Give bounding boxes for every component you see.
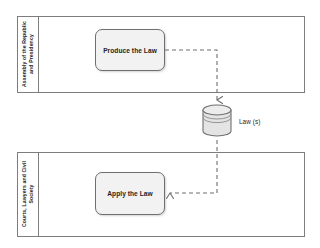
datastore-laws[interactable] — [202, 104, 232, 138]
pool-legislative-header-label: Assembly of the Republic and Presidency — [21, 22, 35, 88]
pool-judicial-header-label: Courts, Lawyers and Civil Society — [21, 161, 35, 227]
datastore-cylinder-icon — [202, 104, 232, 138]
task-produce-the-law-label: Produce the Law — [103, 47, 157, 54]
pool-judicial-header-line-2: Society — [28, 161, 35, 227]
task-produce-the-law[interactable]: Produce the Law — [95, 29, 165, 71]
pool-legislative-header-line-1: Assembly of the Republic — [21, 22, 28, 88]
task-apply-the-law-label: Apply the Law — [107, 190, 153, 197]
task-apply-the-law[interactable]: Apply the Law — [95, 172, 165, 215]
datastore-laws-label: Law (s) — [239, 118, 260, 125]
diagram-canvas: Assembly of the Republic and Presidency … — [0, 0, 320, 248]
pool-legislative-header-line-2: and Presidency — [28, 22, 35, 88]
pool-judicial-header: Courts, Lawyers and Civil Society — [18, 153, 39, 236]
pool-legislative-header: Assembly of the Republic and Presidency — [18, 17, 39, 92]
pool-judicial-header-line-1: Courts, Lawyers and Civil — [21, 161, 28, 227]
